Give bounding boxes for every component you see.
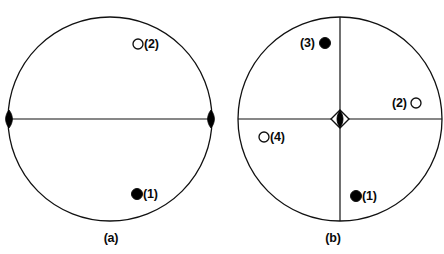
figure-container: (2) (1) (a) (3) (2) (4) (1) (b): [0, 0, 444, 254]
marker-label-4: (4): [270, 131, 285, 144]
panel-a-caption: (a): [0, 232, 222, 245]
marker-label-1: (1): [362, 190, 377, 203]
panel-b: (3) (2) (4) (1) (b): [222, 0, 444, 254]
marker-label-2: (2): [144, 38, 159, 51]
data-marker-m2-open: [133, 39, 143, 49]
data-marker-m1-filled: [351, 191, 362, 202]
panel-b-caption: (b): [222, 232, 444, 245]
marker-label-2: (2): [392, 97, 407, 110]
data-marker-m3-filled: [320, 38, 331, 49]
panel-a: (2) (1) (a): [0, 0, 222, 254]
marker-label-3: (3): [300, 37, 315, 50]
panel-a-diagram: [0, 0, 222, 254]
right-edge-lens: [208, 110, 215, 128]
marker-label-1: (1): [143, 188, 158, 201]
data-marker-m2-open: [411, 98, 421, 108]
data-marker-m1-filled: [132, 189, 143, 200]
panel-b-diagram: [222, 0, 444, 254]
data-marker-m4-open: [259, 132, 269, 142]
left-edge-lens: [6, 110, 13, 128]
